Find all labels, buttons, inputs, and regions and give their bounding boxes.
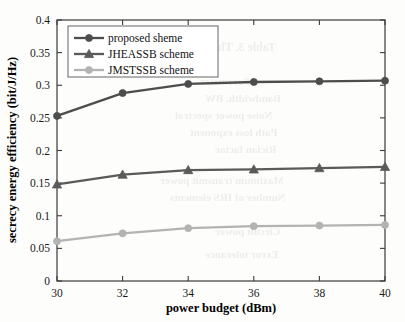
x-tick-label: 32: [117, 287, 129, 299]
legend-label: JMSTSSB scheme: [108, 64, 194, 76]
y-tick-label: 0.15: [30, 177, 50, 189]
series-point-marker: [316, 78, 323, 85]
series-point-marker: [382, 77, 389, 84]
series-point-marker: [250, 223, 257, 230]
series-point-marker: [119, 230, 126, 237]
series-line: [57, 81, 385, 116]
series-line: [57, 167, 385, 185]
legend-label: JHEASSB scheme: [108, 48, 194, 60]
y-tick-label: 0: [44, 275, 50, 287]
series-point-marker: [185, 80, 192, 87]
series-point-marker: [382, 221, 389, 228]
y-tick-label: 0.25: [30, 112, 50, 124]
series-1: [54, 77, 389, 119]
x-tick-label: 40: [379, 287, 391, 299]
legend-marker: [86, 35, 93, 42]
legend-marker: [86, 67, 93, 74]
x-tick-label: 38: [314, 287, 326, 299]
y-tick-label: 0.05: [30, 242, 50, 254]
legend-label: proposed sheme: [108, 32, 182, 45]
x-axis-tick-labels: 303234363840: [51, 287, 391, 299]
y-tick-label: 0.3: [36, 79, 51, 91]
chart-legend: proposed shemeJHEASSB schemeJMSTSSB sche…: [68, 26, 218, 77]
y-tick-label: 0.2: [36, 145, 51, 157]
series-point-marker: [54, 238, 61, 245]
series-3: [54, 221, 389, 244]
series-2: [52, 162, 389, 188]
x-axis-title: power budget (dBm): [166, 301, 276, 315]
line-chart-svg: 303234363840 00.050.10.150.20.250.30.350…: [0, 0, 405, 322]
y-tick-label: 0.4: [36, 14, 51, 26]
data-series-layer: [52, 77, 389, 245]
series-point-marker: [54, 112, 61, 119]
x-tick-label: 36: [248, 287, 260, 299]
y-axis-tick-labels: 00.050.10.150.20.250.30.350.4: [30, 14, 50, 287]
x-tick-label: 34: [182, 287, 194, 299]
series-point-marker: [185, 225, 192, 232]
y-tick-label: 0.1: [36, 210, 51, 222]
y-tick-label: 0.35: [30, 47, 50, 59]
chart-figure: Table 3. The simuParameterBandwidth, BWN…: [0, 0, 405, 322]
series-point-marker: [119, 90, 126, 97]
series-point-marker: [316, 222, 323, 229]
series-point-marker: [250, 78, 257, 85]
x-tick-label: 30: [51, 287, 63, 299]
series-line: [57, 225, 385, 241]
y-axis-title: secrecy energy efficiency (bit/J/Hz): [5, 57, 19, 243]
